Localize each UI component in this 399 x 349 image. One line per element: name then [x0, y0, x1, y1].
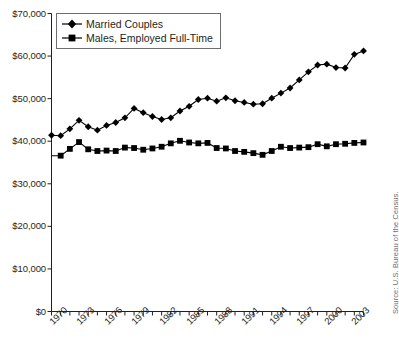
data-point-square [351, 140, 357, 146]
series-males-employed-full-time [52, 138, 367, 159]
data-point-square [241, 149, 247, 155]
data-point-square [113, 148, 119, 154]
data-point-diamond [268, 95, 275, 102]
legend-label-married-couples: Married Couples [83, 18, 163, 30]
data-point-square [168, 140, 174, 146]
data-point-square [122, 145, 128, 151]
data-point-square [333, 141, 339, 147]
data-point-square [104, 148, 110, 154]
data-point-square [140, 147, 146, 153]
data-point-diamond [85, 123, 92, 130]
data-point-diamond [48, 132, 55, 139]
data-point-square [67, 146, 73, 152]
data-point-diamond [232, 97, 239, 104]
square-marker-icon [61, 32, 83, 44]
data-point-square [58, 153, 64, 159]
data-point-square [76, 139, 82, 145]
data-point-diamond [323, 61, 330, 68]
legend-item-married-couples: Married Couples [61, 17, 213, 31]
series-married-couples [48, 48, 367, 140]
data-point-square [296, 145, 302, 151]
data-point-square [205, 140, 211, 146]
data-point-square [260, 152, 266, 158]
source-note: Source: U.S. Bureau of the Census. [391, 191, 399, 314]
data-point-diamond [213, 98, 220, 105]
data-point-square [131, 145, 137, 151]
data-point-square [269, 148, 275, 154]
data-point-diamond [360, 48, 367, 55]
data-point-diamond [204, 95, 211, 102]
data-point-diamond [112, 119, 119, 126]
data-point-square [342, 141, 348, 147]
data-point-diamond [333, 64, 340, 71]
data-point-square [278, 144, 284, 150]
data-point-diamond [140, 109, 147, 116]
data-point-diamond [149, 113, 156, 120]
data-point-square [287, 145, 293, 151]
data-point-square [94, 148, 100, 154]
data-point-square [315, 141, 321, 147]
data-point-square [232, 148, 238, 154]
data-point-diamond [222, 94, 229, 101]
chart-container: $0$10,000$20,000$30,000$40,000$50,000$60… [0, 0, 399, 349]
data-point-diamond [158, 116, 165, 123]
legend-label-males-employed-full-time: Males, Employed Full-Time [83, 32, 213, 44]
data-point-diamond [94, 127, 101, 134]
chart-legend: Married Couples Males, Employed Full-Tim… [56, 13, 221, 49]
data-point-diamond [103, 122, 110, 129]
data-point-diamond [351, 51, 358, 58]
data-point-square [214, 145, 220, 151]
data-point-square [150, 146, 156, 152]
data-point-square [195, 140, 201, 146]
data-point-diamond [259, 100, 266, 107]
data-point-square [186, 140, 192, 146]
data-point-square [177, 138, 183, 144]
data-point-diamond [250, 101, 257, 108]
data-point-square [250, 150, 256, 156]
data-point-square [223, 146, 229, 152]
diamond-marker-icon [61, 18, 83, 30]
data-point-square [361, 140, 367, 146]
data-point-diamond [342, 65, 349, 72]
legend-item-males-employed-full-time: Males, Employed Full-Time [61, 31, 213, 45]
plot-area [0, 0, 399, 349]
data-point-diamond [278, 90, 285, 97]
data-point-square [306, 144, 312, 150]
data-point-diamond [241, 99, 248, 106]
data-point-square [85, 146, 91, 152]
data-point-square [159, 144, 165, 150]
data-point-square [324, 143, 330, 149]
